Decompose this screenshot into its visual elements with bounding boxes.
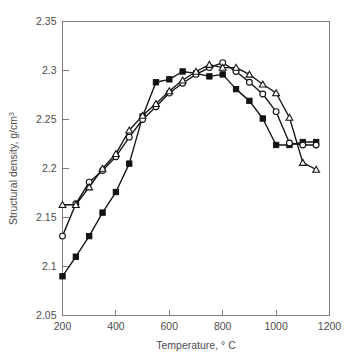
series-line-filled-square: [63, 71, 317, 276]
data-point-open-circle: [247, 79, 253, 85]
data-point-filled-square: [233, 86, 238, 91]
series-line-open-triangle: [63, 65, 317, 205]
data-point-filled-square: [220, 72, 225, 77]
y-tick-label: 2.25: [36, 113, 57, 125]
data-point-open-triangle: [286, 114, 293, 120]
y-tick-label: 2.1: [42, 260, 57, 272]
data-point-filled-square: [153, 80, 158, 85]
series-open-triangle: [59, 61, 319, 207]
data-point-filled-square: [260, 116, 265, 121]
x-tick-label: 800: [214, 320, 232, 332]
y-axis-title-main: Structural density, g/cm: [7, 116, 19, 225]
x-tick-label: 200: [54, 320, 72, 332]
data-point-filled-square: [113, 189, 118, 194]
data-point-filled-square: [167, 77, 172, 82]
data-point-open-circle: [273, 109, 279, 115]
x-tick-label: 400: [107, 320, 125, 332]
x-tick-label: 1200: [318, 320, 342, 332]
data-point-filled-square: [100, 210, 105, 215]
chart-axis-titles: 2.052.12.152.22.252.32.35200400600800100…: [7, 15, 341, 350]
data-point-open-circle: [287, 140, 293, 146]
x-axis-title: Temperature, ° C: [156, 339, 236, 351]
series-open-circle: [60, 60, 319, 239]
y-axis-title: Structural density, g/cm3: [7, 112, 19, 225]
data-point-open-triangle: [299, 159, 306, 165]
data-point-filled-square: [207, 74, 212, 79]
data-point-filled-square: [87, 233, 92, 238]
data-point-filled-square: [273, 142, 278, 147]
chart-figure: 2.052.12.152.22.252.32.35200400600800100…: [0, 0, 352, 363]
data-point-open-circle: [260, 91, 266, 97]
data-point-open-circle: [313, 142, 319, 148]
chart-series: [59, 60, 319, 279]
data-point-filled-square: [73, 254, 78, 259]
data-point-filled-square: [247, 98, 252, 103]
data-point-filled-square: [127, 161, 132, 166]
x-tick-label: 1000: [264, 320, 288, 332]
data-point-filled-square: [60, 274, 65, 279]
data-point-open-triangle: [206, 61, 213, 67]
data-point-filled-square: [180, 69, 185, 74]
y-axis-title-superscript: 3: [8, 112, 15, 116]
data-point-open-circle: [300, 142, 306, 148]
structural-density-vs-temperature-chart: 2.052.12.152.22.252.32.35200400600800100…: [0, 0, 352, 363]
y-tick-label: 2.15: [36, 211, 57, 223]
data-point-open-triangle: [313, 166, 320, 172]
data-point-open-triangle: [246, 71, 253, 77]
y-tick-label: 2.2: [42, 162, 57, 174]
x-tick-label: 600: [161, 320, 179, 332]
data-point-open-circle: [60, 233, 66, 239]
y-tick-label: 2.35: [36, 15, 57, 27]
y-tick-label: 2.3: [42, 64, 57, 76]
